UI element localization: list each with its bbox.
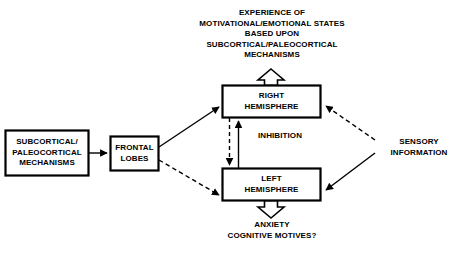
left-hemisphere-box-label: LEFT HEMISPHERE <box>223 169 320 200</box>
frontal-lobes-box-label: FRONTAL LOBES <box>111 137 158 170</box>
hollow-arrow-down-to-outcomes <box>258 201 284 218</box>
outcomes-caption: ANXIETY COGNITIVE MOTIVES? <box>196 220 348 241</box>
experience-caption: EXPERIENCE OF MOTIVATIONAL/EMOTIONAL STA… <box>182 8 362 61</box>
inhibition-label: INHIBITION <box>244 131 316 142</box>
connector-frontal-to-right-hemisphere <box>159 107 219 147</box>
subcortical-box-label: SUBCORTICAL/ PALEOCORTICAL MECHANISMS <box>6 131 88 175</box>
hollow-arrow-up-to-experience <box>258 69 284 85</box>
connector-frontal-to-left-hemisphere <box>159 160 219 195</box>
diagram-canvas: EXPERIENCE OF MOTIVATIONAL/EMOTIONAL STA… <box>0 0 463 253</box>
sensory-information-caption: SENSORY INFORMATION <box>378 137 460 158</box>
connector-sensory-to-right-hemisphere <box>326 106 375 140</box>
right-hemisphere-box-label: RIGHT HEMISPHERE <box>223 86 320 117</box>
connector-sensory-to-left-hemisphere <box>326 153 375 190</box>
